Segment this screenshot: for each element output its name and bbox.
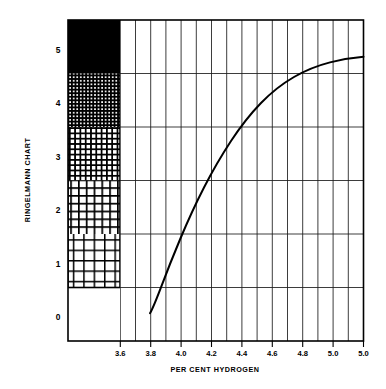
ringelmann-block-3 [68, 127, 120, 181]
ringelmann-block-4 [68, 74, 120, 128]
y-tick-label: 1 [56, 259, 61, 269]
x-tick-label: 4.0 [176, 349, 187, 358]
ringelmann-scale-blocks [68, 20, 120, 341]
x-tick-labels: 3.6 3.8 4.0 4.2 4.4 4.6 4.8 5.0 5.0 [115, 349, 369, 358]
ringelmann-chart-svg: 3.6 3.8 4.0 4.2 4.4 4.6 4.8 5.0 5.0 5 4 … [0, 0, 386, 389]
y-tick-label: 0 [56, 312, 61, 322]
x-tick-label: 4.6 [267, 349, 278, 358]
x-tick-label: 4.8 [297, 349, 308, 358]
x-tick-label: 4.2 [206, 349, 217, 358]
y-tick-label: 4 [56, 98, 61, 108]
ringelmann-block-1 [68, 234, 120, 288]
ringelmann-block-2 [68, 181, 120, 235]
ringelmann-block-0 [68, 288, 120, 342]
x-tick-label: 4.4 [237, 349, 248, 358]
x-tick-label: 3.8 [145, 349, 156, 358]
chart-background [0, 0, 386, 389]
x-tick-label: 5.0 [358, 349, 369, 358]
y-tick-label: 3 [56, 152, 61, 162]
y-tick-label: 2 [56, 205, 61, 215]
y-tick-label: 5 [56, 45, 61, 55]
x-tick-label: 3.6 [115, 349, 126, 358]
chart-figure: 3.6 3.8 4.0 4.2 4.4 4.6 4.8 5.0 5.0 5 4 … [0, 0, 386, 389]
y-axis-title: RINGELMANN CHART [23, 138, 32, 223]
ringelmann-block-5 [68, 20, 120, 74]
x-tick-label: 5.0 [328, 349, 339, 358]
x-axis-title: PER CENT HYDROGEN [170, 365, 259, 374]
